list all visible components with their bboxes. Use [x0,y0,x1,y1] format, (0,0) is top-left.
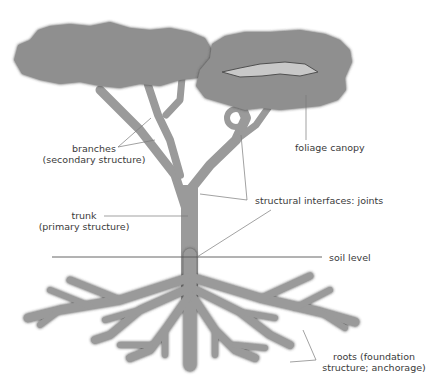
leader-roots-1 [290,360,316,362]
root-right-upper [262,276,310,298]
root-left-upper2 [50,290,90,306]
branch-right-main [190,104,246,190]
tree-structure-diagram [0,0,436,383]
root-right-low-c [235,345,265,348]
trunk-label-line1: trunk [38,210,130,221]
leader-joint-3 [197,210,271,257]
branches-label-line1: branches [38,143,150,154]
root-left-upper [70,280,120,300]
trunk-label: trunk (primary structure) [38,210,130,232]
trunk-label-line2: (primary structure) [38,221,130,232]
soil-level-label-line1: soil level [329,252,371,263]
root-right-upper2 [295,290,330,308]
roots-label-line1: roots (foundation [318,351,430,362]
roots-label-line2: structure; anchorage) [318,362,430,373]
branch-left-twig [166,78,182,115]
leader-roots-2 [303,330,316,360]
foliage-canopy-label-line1: foliage canopy [295,142,365,153]
roots [28,255,355,365]
foliage-canopy-label: foliage canopy [295,142,365,153]
joints-label-line1: structural interfaces: joints [255,195,383,206]
foliage-canopy-left [14,22,215,88]
roots-label: roots (foundation structure; anchorage) [318,351,430,373]
joint-knot [227,109,245,127]
soil-level-label: soil level [329,252,371,263]
leader-joint-2 [241,135,247,200]
leader-joint-1 [200,194,247,200]
branches-label-line2: (secondary structure) [38,154,150,165]
joints-label: structural interfaces: joints [255,195,383,206]
branches-label: branches (secondary structure) [38,143,150,165]
